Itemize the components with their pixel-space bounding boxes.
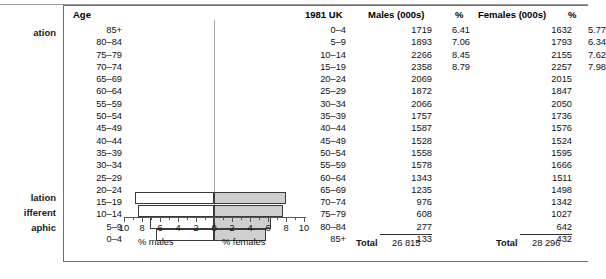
header-females-pct: %: [568, 9, 576, 20]
axis-tick-minor: [295, 217, 296, 220]
axis-tick-label: 6: [153, 223, 167, 233]
axis-tick-major: [286, 217, 287, 222]
margin-note-1: lation: [0, 192, 60, 203]
table-row: 25–2918721847: [300, 85, 588, 97]
table-row: 50–5415581595: [300, 147, 588, 159]
age-label: 55–59: [70, 98, 122, 110]
cell-males: 1235: [356, 184, 432, 196]
cell-males: 1528: [356, 135, 432, 147]
male-bar: [138, 205, 214, 217]
cell-males: 1757: [356, 110, 432, 122]
axis-tick-major: [124, 217, 125, 222]
axis-tick-minor: [169, 217, 170, 220]
age-label: 40–44: [70, 135, 122, 147]
cell-females: 1511: [486, 172, 572, 184]
axis-tick-minor: [205, 217, 206, 220]
age-label: 0–4: [70, 233, 122, 245]
cell-females: 2155: [486, 49, 572, 61]
age-label: 10–14: [70, 208, 122, 220]
axis-tick-minor: [259, 217, 260, 220]
females-total-value: 28 296: [532, 238, 560, 248]
pyramid-bar-row: [124, 205, 306, 217]
cell-females: 1847: [486, 85, 572, 97]
cell-males-pct: 6.41: [440, 24, 470, 36]
header-age: Age: [73, 9, 91, 20]
age-label: 75–79: [70, 49, 122, 61]
age-label: 60–64: [70, 85, 122, 97]
axis-tick-minor: [241, 217, 242, 220]
axis-tick-label: 8: [279, 223, 293, 233]
cell-age: 65–69: [300, 184, 346, 196]
pyramid-bars: [124, 20, 306, 217]
female-bar: [214, 192, 286, 204]
axis-title-females: % females: [222, 237, 265, 247]
age-label: 35–39: [70, 147, 122, 159]
age-label: 20–24: [70, 184, 122, 196]
axis-tick-major: [196, 217, 197, 222]
males-total-value: 26 815: [392, 238, 420, 248]
age-label: 15–19: [70, 196, 122, 208]
table-row: 20–2420692015: [300, 73, 588, 85]
cell-males: 1558: [356, 147, 432, 159]
axis-tick-label: 2: [225, 223, 239, 233]
cell-age: 40–44: [300, 122, 346, 134]
header-year: 1981 UK: [305, 9, 343, 20]
cell-males: 2358: [356, 61, 432, 73]
male-bar: [135, 192, 214, 204]
age-label-column: 85+80–8475–7970–7465–6960–6455–5950–5445…: [70, 24, 122, 245]
cell-females: 1498: [486, 184, 572, 196]
cell-males: 1343: [356, 172, 432, 184]
axis-tick-minor: [223, 217, 224, 220]
axis-tick-major: [268, 217, 269, 222]
cell-age: 15–19: [300, 61, 346, 73]
cell-males-pct: 7.06: [440, 36, 470, 48]
table-row: 60–6413431511: [300, 172, 588, 184]
axis-tick-label: 10: [117, 223, 131, 233]
age-label: 45–49: [70, 122, 122, 134]
cell-age: 50–54: [300, 147, 346, 159]
cell-age: 25–29: [300, 85, 346, 97]
cell-males: 277: [356, 221, 432, 233]
axis-tick-major: [214, 217, 215, 222]
table-row: 5–918937.0617936.34: [300, 36, 588, 48]
cell-females-pct: 7.62: [576, 49, 606, 61]
margin-note-3: aphic: [0, 222, 60, 233]
cell-females-pct: 7.98: [576, 61, 606, 73]
axis-tick-minor: [277, 217, 278, 220]
axis-tick-major: [250, 217, 251, 222]
cell-females: 1595: [486, 147, 572, 159]
population-pyramid-chart: 1086420246810 % males % females: [124, 20, 306, 232]
cell-females: 2015: [486, 73, 572, 85]
age-label: 5–9: [70, 221, 122, 233]
margin-note-0: ation: [0, 27, 60, 38]
table-row: 15–1923588.7922577.98: [300, 61, 588, 73]
cell-age: 35–39: [300, 110, 346, 122]
cell-age: 0–4: [300, 24, 346, 36]
table-row: 35–3917571736: [300, 110, 588, 122]
axis-tick-label: 8: [135, 223, 149, 233]
cell-age: 10–14: [300, 49, 346, 61]
table-row: 45–4915281524: [300, 135, 588, 147]
axis-tick-label: 6: [261, 223, 275, 233]
cell-age: 20–24: [300, 73, 346, 85]
header-females: Females (000s): [478, 9, 546, 20]
margin-note-2: ifferent: [0, 207, 60, 218]
pyramid-bar-row: [124, 192, 306, 204]
totals-row: Total 26 815 Total 28 296: [300, 234, 588, 250]
cell-females: 1632: [486, 24, 572, 36]
age-label: 25–29: [70, 172, 122, 184]
cell-males: 1587: [356, 122, 432, 134]
cell-males: 2266: [356, 49, 432, 61]
cell-females: 1342: [486, 196, 572, 208]
axis-tick-major: [178, 217, 179, 222]
axis-tick-minor: [187, 217, 188, 220]
cell-females: 1793: [486, 36, 572, 48]
cell-females-pct: 5.77: [576, 24, 606, 36]
cell-females: 642: [486, 221, 572, 233]
females-total-rule: [520, 234, 572, 235]
axis-tick-label: 4: [243, 223, 257, 233]
cell-females: 1666: [486, 159, 572, 171]
header-males-pct: %: [455, 9, 463, 20]
cell-age: 75–79: [300, 208, 346, 220]
axis-tick-minor: [151, 217, 152, 220]
